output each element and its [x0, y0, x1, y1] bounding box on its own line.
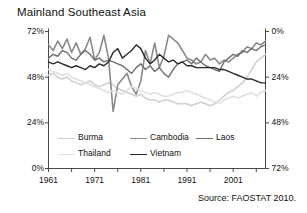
series-line-burma [49, 54, 266, 105]
x-tick-label-1991: 1991 [169, 175, 205, 185]
x-tick-label-1971: 1971 [77, 175, 113, 185]
series-line-vietnam [49, 45, 266, 83]
y-tick-label-right-72: 0% [272, 26, 307, 36]
y-tick-label-right-48: 24% [272, 72, 307, 82]
chart-figure: Mainland Southeast Asia BurmaCambodiaLao… [0, 0, 306, 213]
series-line-laos [49, 45, 266, 77]
x-tick-label-1981: 1981 [123, 175, 159, 185]
y-tick-label-left-48: 48% [8, 72, 44, 82]
x-tick-label-2001: 2001 [215, 175, 251, 185]
y-tick-label-right-0: 72% [272, 163, 307, 173]
y-tick-label-left-72: 72% [8, 26, 44, 36]
series-layer [49, 35, 266, 111]
y-tick-label-left-24: 24% [8, 117, 44, 127]
chart-title: Mainland Southeast Asia [17, 6, 146, 18]
x-tick-label-1961: 1961 [31, 175, 67, 185]
series-line-thailand [49, 70, 266, 104]
source-note: Source: FAOSTAT 2010. [198, 193, 296, 203]
y-tick-label-left-0: 0% [8, 163, 44, 173]
y-tick-label-right-24: 48% [272, 117, 307, 127]
